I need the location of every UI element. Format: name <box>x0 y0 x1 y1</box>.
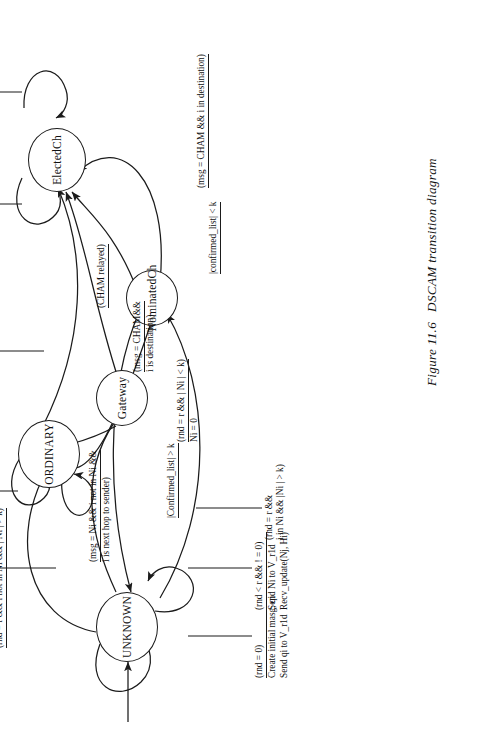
figure-title: DSCAM transition diagram <box>424 158 439 312</box>
state-gateway-label: Gateway <box>116 377 128 419</box>
figure-number: Figure 11.6 <box>424 322 439 386</box>
state-unknown[interactable]: UNKNOWN <box>96 592 158 662</box>
label-unknown-self-2: (rnd < r && ! = 0) Send Ni to V_r1d Recv… <box>254 532 290 610</box>
label-unknown-self-2-guard: (rnd < r && ! = 0) <box>254 532 267 610</box>
label-nominatedch-unknown: |confirmed_list| < k <box>208 202 221 274</box>
label-gateway-electedch-guard-1: (msg = CHAM&& <box>132 301 145 372</box>
label-nominatedch-ordinary-guard: |Confirmed_list| > k <box>166 443 179 518</box>
state-electedch-label: ElectedCh <box>51 135 63 185</box>
edge-ordinary-electedch <box>43 188 78 426</box>
label-unknown-ordinary-guard: (rnd = r && i not in Ni && | Ni | > k) <box>0 508 7 648</box>
label-gateway-electedch: (msg = CHAM&& i is destination) <box>132 301 157 372</box>
label-unknown-nominatedch-guard-1: (rnd = r && <box>264 464 275 540</box>
label-unknown-self-2-action-1: Send Ni to V_r1d <box>267 532 278 610</box>
label-nominatedch-electedch-guard: (CHAM relayed) <box>96 244 109 308</box>
label-nominatedch-electedch: (CHAM relayed) <box>96 244 109 308</box>
label-unknown-gateway-action: Ni = 0 <box>189 359 200 442</box>
label-nominatedch-unknown-guard: |confirmed_list| < k <box>208 202 221 274</box>
label-unknown-gateway: (rnd = r && | Ni | < k) Ni = 0 <box>176 359 201 442</box>
label-nominatedch-ordinary: |Confirmed_list| > k <box>166 443 179 518</box>
edge-nominatedch-electedch-2 <box>78 158 161 282</box>
figure-caption: Figure 11.6DSCAM transition diagram <box>424 158 440 386</box>
label-gateway-ordinary-guard-1: (msg = Ni && i not in Ni && <box>88 450 101 562</box>
label-nominatedch-electedch-2-guard: (msg = CHAM && i in destination) <box>196 54 209 188</box>
figure-page: UNKNOWN ORDINARY Gateway NominatedCh Ele… <box>0 0 502 744</box>
label-gateway-ordinary-guard-2: i is next hop to sender) <box>101 450 112 562</box>
state-gateway[interactable]: Gateway <box>96 370 148 426</box>
label-unknown-self-2-action-2: Recv_update(Nj, Hi) <box>279 532 290 610</box>
label-gateway-electedch-guard-2: i is destination) <box>145 301 156 372</box>
edge-gateway-electedch <box>66 192 118 378</box>
state-electedch[interactable]: ElectedCh <box>28 128 86 192</box>
edge-electedch-self-2 <box>24 71 67 118</box>
label-gateway-ordinary: (msg = Ni && i not in Ni && i is next ho… <box>88 450 113 562</box>
edge-unknown-self-2 <box>148 567 193 612</box>
state-ordinary-label: ORDINARY <box>43 423 55 485</box>
state-unknown-label: UNKNOWN <box>121 596 133 658</box>
label-unknown-ordinary: (rnd = r && i not in Ni && | Ni | > k) <box>0 508 7 648</box>
state-ordinary[interactable]: ORDINARY <box>18 420 80 488</box>
label-unknown-nominatedch-guard-2: i in Ni && |Ni | > k) <box>275 464 286 540</box>
label-nominatedch-electedch-2: (msg = CHAM && i in destination) <box>196 54 209 188</box>
label-unknown-nominatedch: (rnd = r && i in Ni && |Ni | > k) <box>264 464 287 540</box>
label-unknown-gateway-guard: (rnd = r && | Ni | < k) <box>176 359 189 442</box>
